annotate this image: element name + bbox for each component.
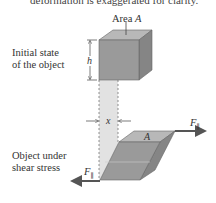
sheared-line1: Object under [12,150,67,162]
force-label-left: F∥ [84,166,94,182]
force-subscript: ∥ [196,123,199,131]
top-area-label: A [144,131,150,143]
force-subscript: ∥ [90,172,93,180]
displacement-label: x [106,115,110,127]
sheared-line2: shear stress [12,162,67,174]
force-label-right: F∥ [190,117,200,133]
sheared-label: Object under shear stress [12,150,67,174]
initial-state-label: Initial state of the object [12,47,64,71]
initial-cube [99,22,152,80]
initial-state-line1: Initial state [12,47,64,59]
area-label: Area A [112,13,141,25]
initial-state-line2: of the object [12,59,64,71]
area-symbol: A [135,13,141,24]
area-label-text: Area [112,13,132,24]
height-label: h [87,55,92,67]
